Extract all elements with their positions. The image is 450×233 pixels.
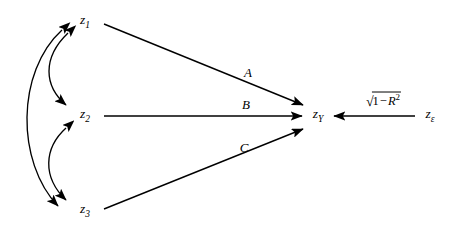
path-label-c: C	[240, 141, 249, 154]
node-label-z1: z1	[80, 13, 90, 30]
node-subscript-zy: Y	[318, 114, 323, 124]
radicand-one: 1	[373, 94, 379, 108]
node-subscript-zepsilon: ε	[431, 114, 435, 124]
node-label-zy: zY	[313, 107, 324, 124]
node-subscript-z3: 3	[85, 209, 90, 219]
radicand: 1−R2	[372, 92, 401, 108]
path-label-a: A	[244, 66, 252, 79]
correlation-arrow-z2-z3	[49, 128, 66, 200]
residual-path-label: √1−R2	[365, 92, 401, 109]
path-arrow-a	[104, 24, 303, 105]
correlation-arrow-z1-z2	[49, 33, 68, 105]
node-label-z2: z2	[80, 107, 90, 124]
path-diagram-svg	[0, 0, 450, 233]
radical-expression: √1−R2	[365, 92, 401, 109]
node-label-z3: z3	[80, 202, 90, 219]
correlation-arrow-z1-z3	[27, 30, 62, 206]
node-subscript-z2: 2	[85, 114, 90, 124]
node-label-zepsilon: zε	[425, 107, 434, 124]
radicand-exponent: 2	[396, 92, 401, 102]
path-diagram-canvas: z1 z2 z3 zY zε A B C √1−R2	[0, 0, 450, 233]
path-arrow-c	[104, 129, 303, 209]
radicand-r: R	[388, 94, 396, 108]
path-label-b: B	[242, 98, 250, 111]
radicand-minus: −	[379, 94, 388, 108]
node-subscript-z1: 1	[85, 20, 90, 30]
